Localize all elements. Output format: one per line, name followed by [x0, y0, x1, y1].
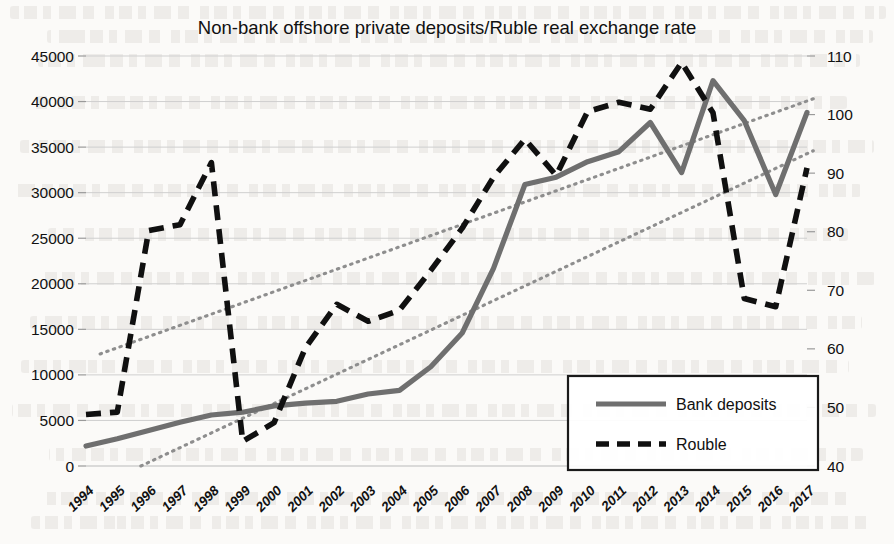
- legend-box: [568, 376, 818, 470]
- x-axis-tick-label: 2016: [754, 482, 787, 515]
- x-axis-tick-label: 2004: [378, 482, 411, 515]
- legend-label-bank-deposits: Bank deposits: [676, 396, 777, 413]
- x-axis-tick-label: 2005: [409, 482, 442, 515]
- chart-title: Non-bank offshore private deposits/Ruble…: [198, 17, 696, 38]
- x-axis-tick-label: 1998: [190, 482, 222, 514]
- left-axis-tick-label: 30000: [31, 184, 74, 201]
- left-axis-tick-label: 15000: [31, 321, 74, 338]
- x-axis-tick-label: 2011: [598, 483, 630, 515]
- left-axis-tick-label: 20000: [31, 275, 74, 292]
- x-axis-tick-label: 2010: [566, 482, 599, 515]
- left-axis-tick-label: 0: [65, 458, 74, 475]
- right-axis-tick-label: 50: [827, 399, 845, 416]
- x-axis-tick-label: 1999: [221, 482, 253, 514]
- left-axis-tick-label: 25000: [31, 230, 74, 247]
- x-axis-tick-label: 2003: [346, 482, 379, 515]
- x-axis-tick-label: 2002: [315, 482, 348, 515]
- x-axis-tick-label: 1997: [159, 482, 192, 515]
- x-axis-labels: 1994199519961997199819992000200120022003…: [65, 482, 819, 516]
- x-axis-tick-label: 1996: [127, 482, 159, 514]
- x-axis-tick-label: 2009: [534, 482, 567, 515]
- x-axis-tick-label: 2014: [691, 482, 724, 515]
- right-axis-tick-label: 100: [827, 106, 853, 123]
- left-axis-tick-label: 35000: [31, 139, 74, 156]
- chart-legend[interactable]: Bank deposits Rouble: [568, 376, 818, 470]
- right-axis-tick-label: 90: [827, 165, 845, 182]
- legend-label-rouble: Rouble: [676, 436, 727, 453]
- left-axis-labels: 0500010000150002000025000300003500040000…: [31, 48, 74, 475]
- right-axis-tick-label: 40: [827, 458, 845, 475]
- left-axis-tick-label: 10000: [31, 366, 74, 383]
- x-axis-tick-label: 1994: [65, 482, 97, 514]
- x-axis-tick-label: 2007: [472, 482, 506, 516]
- x-axis-tick-label: 2000: [252, 482, 285, 515]
- x-axis-tick-label: 2001: [283, 483, 316, 516]
- trend-upper: [100, 99, 813, 354]
- left-axis-tick-label: 5000: [40, 412, 75, 429]
- right-axis-tick-label: 60: [827, 340, 845, 357]
- left-axis-tick-label: 40000: [31, 93, 74, 110]
- right-axis-tick-label: 70: [827, 282, 845, 299]
- chart-svg: Non-bank offshore private deposits/Ruble…: [0, 0, 894, 544]
- x-axis-tick-label: 2017: [785, 482, 819, 516]
- x-axis-tick-label: 2013: [660, 482, 693, 515]
- left-axis-tickmarks: [78, 56, 86, 466]
- x-axis-tick-label: 2008: [503, 482, 536, 515]
- x-axis-tick-label: 2006: [440, 482, 473, 515]
- x-axis-tick-label: 1995: [96, 482, 128, 514]
- right-axis-tick-label: 80: [827, 223, 845, 240]
- right-axis-labels: 405060708090100110: [827, 48, 853, 475]
- left-axis-tick-label: 45000: [31, 48, 74, 65]
- right-axis-tick-label: 110: [827, 48, 852, 65]
- x-axis-tick-label: 2015: [722, 482, 755, 515]
- x-axis-tick-label: 2012: [628, 482, 661, 515]
- chart-figure: Non-bank offshore private deposits/Ruble…: [0, 0, 894, 544]
